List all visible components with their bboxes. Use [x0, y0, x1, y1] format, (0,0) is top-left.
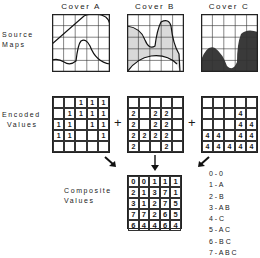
grid-cell	[172, 108, 183, 119]
grid-cell: 1	[170, 176, 181, 187]
grid-cell	[98, 141, 109, 152]
legend-item: 1 - A	[209, 179, 237, 190]
grid-cell: 2	[161, 119, 172, 130]
grid-cell	[224, 130, 235, 141]
grid-cell	[139, 119, 150, 130]
legend-item: 0 - 0	[209, 168, 237, 179]
grid-cell	[202, 97, 213, 108]
grid-cell	[246, 97, 257, 108]
grid-cell	[75, 119, 86, 130]
arrow-a-to-composite	[104, 156, 118, 168]
grid-cell	[224, 97, 235, 108]
grid-cell: 3	[149, 187, 160, 198]
grid-cell: 4	[213, 130, 224, 141]
grid-cell: 1	[64, 108, 75, 119]
encoded-grid-b: 222222222222	[127, 96, 184, 153]
grid-cell: 4	[246, 119, 257, 130]
plus-operator-1: +	[114, 115, 122, 130]
grid-cell: 7	[128, 209, 139, 220]
grid-cell: 4	[246, 130, 257, 141]
grid-cell	[150, 97, 161, 108]
encoded-grid-a: 11111111111111	[52, 96, 110, 153]
grid-cell: 1	[87, 97, 98, 108]
grid-cell	[75, 141, 86, 152]
grid-cell: 1	[139, 187, 150, 198]
grid-cell: 4	[202, 141, 213, 152]
grid-cell	[53, 141, 64, 152]
grid-cell: 2	[128, 108, 139, 119]
grid-cell: 2	[161, 130, 172, 141]
grid-cell: 1	[98, 130, 109, 141]
source-map-b	[127, 14, 184, 72]
grid-cell: 2	[150, 108, 161, 119]
grid-cell	[87, 141, 98, 152]
cover-a-title: Cover A	[51, 2, 111, 11]
grid-cell	[53, 97, 64, 108]
grid-cell: 1	[53, 130, 64, 141]
grid-cell: 1	[98, 97, 109, 108]
grid-cell	[64, 97, 75, 108]
grid-cell: 2	[128, 141, 139, 152]
grid-cell	[64, 141, 75, 152]
grid-cell	[128, 97, 139, 108]
grid-cell	[224, 119, 235, 130]
arrow-c-to-composite	[196, 156, 210, 168]
grid-cell	[246, 108, 257, 119]
composite-values-label: Composite Values	[64, 186, 112, 206]
grid-cell: 2	[150, 119, 161, 130]
grid-cell: 3	[128, 198, 139, 209]
grid-cell: 2	[150, 130, 161, 141]
grid-cell: 7	[139, 209, 150, 220]
grid-cell: 1	[87, 119, 98, 130]
grid-cell: 2	[149, 209, 160, 220]
grid-cell: 1	[87, 108, 98, 119]
grid-cell: 6	[160, 209, 171, 220]
grid-cell	[139, 108, 150, 119]
legend-item: 6 - B C	[209, 236, 237, 247]
grid-cell: 4	[149, 220, 160, 231]
cover-b-title: Cover B	[125, 2, 185, 11]
grid-cell: 1	[139, 198, 150, 209]
grid-cell: 1	[75, 97, 86, 108]
grid-cell	[202, 108, 213, 119]
grid-cell: 4	[202, 130, 213, 141]
source-map-c	[201, 14, 258, 72]
grid-cell: 4	[235, 141, 246, 152]
grid-cell	[213, 119, 224, 130]
grid-cell: 0	[128, 176, 139, 187]
plus-operator-2: +	[188, 115, 196, 130]
grid-cell: 1	[98, 108, 109, 119]
grid-cell: 7	[160, 187, 171, 198]
grid-cell: 4	[139, 220, 150, 231]
grid-cell: 1	[64, 130, 75, 141]
grid-cell: 2	[161, 108, 172, 119]
grid-cell	[172, 97, 183, 108]
legend-item: 3 - A B	[209, 202, 237, 213]
grid-cell	[172, 130, 183, 141]
grid-cell: 1	[160, 176, 171, 187]
grid-cell: 6	[160, 220, 171, 231]
grid-cell: 2	[128, 130, 139, 141]
encoded-grid-c: 444444444444	[201, 96, 258, 153]
grid-cell	[224, 108, 235, 119]
grid-cell: 2	[161, 141, 172, 152]
grid-cell	[202, 119, 213, 130]
grid-cell	[235, 97, 246, 108]
grid-cell: 2	[149, 198, 160, 209]
grid-cell: 1	[170, 187, 181, 198]
grid-cell: 6	[128, 220, 139, 231]
encoded-values-label: Encoded Values	[2, 110, 41, 130]
cover-c-title: Cover C	[199, 2, 259, 11]
grid-cell	[87, 130, 98, 141]
grid-cell: 4	[224, 141, 235, 152]
grid-cell: 4	[235, 130, 246, 141]
grid-cell	[139, 97, 150, 108]
grid-cell	[213, 97, 224, 108]
composite-grid: 0011121371312757726564464	[127, 175, 182, 229]
grid-cell	[139, 141, 150, 152]
grid-cell: 1	[53, 119, 64, 130]
grid-cell	[150, 141, 161, 152]
grid-cell: 5	[170, 198, 181, 209]
grid-cell	[161, 97, 172, 108]
grid-cell	[213, 108, 224, 119]
